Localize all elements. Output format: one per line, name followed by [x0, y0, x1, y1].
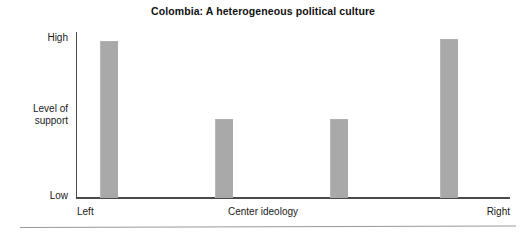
x-axis-label-right: Right — [487, 205, 510, 218]
bar-left — [100, 41, 118, 198]
bar-right — [440, 39, 458, 198]
chart-figure: Colombia: A heterogeneous political cult… — [0, 0, 526, 236]
y-axis-title-level-of-support: Level of support — [0, 103, 68, 127]
bottom-divider-rule — [20, 225, 516, 228]
x-axis-title-center-ideology: Center ideology — [0, 205, 526, 218]
bar-center-left — [215, 119, 233, 198]
bar-center-right — [330, 119, 348, 198]
y-axis-label-low: Low — [0, 190, 68, 202]
chart-title: Colombia: A heterogeneous political cult… — [0, 5, 526, 17]
y-axis-label-high: High — [0, 32, 68, 44]
plot-area — [77, 33, 510, 198]
